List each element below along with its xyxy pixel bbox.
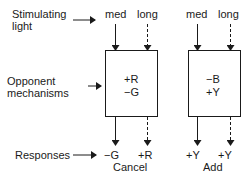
diagram-lines xyxy=(0,0,247,181)
panel2-box xyxy=(189,51,241,117)
panel1-box xyxy=(106,51,158,117)
